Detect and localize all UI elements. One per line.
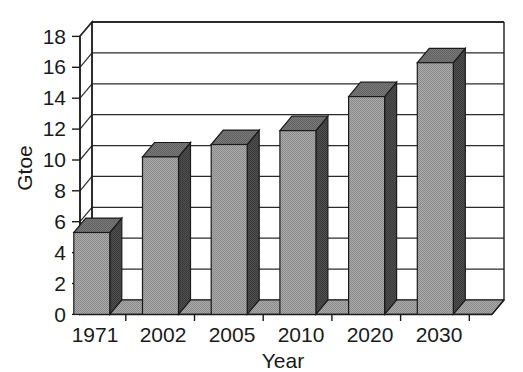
bar-2010: [280, 116, 328, 314]
y-tick-label: 16: [43, 55, 66, 78]
x-tick-label: 2005: [209, 323, 256, 346]
y-tick-label: 2: [54, 272, 66, 295]
y-axis-title: Gtoe: [13, 145, 36, 191]
y-tick-labels: 18 16 14 12 10 8 6 4 2 0: [43, 25, 67, 326]
y-tick-label: 0: [54, 303, 66, 326]
y-tick-label: 12: [43, 117, 66, 140]
bar-chart: 18 16 14 12 10 8 6 4 2 0 1971 2002 2005 …: [0, 0, 523, 372]
y-tick-label: 14: [43, 86, 67, 109]
chart-canvas: 18 16 14 12 10 8 6 4 2 0 1971 2002 2005 …: [0, 0, 523, 372]
x-tick-label: 2010: [278, 323, 325, 346]
bar-2002: [143, 143, 191, 315]
x-ticks: [126, 314, 470, 321]
bar-2020: [349, 82, 397, 314]
bar-2030: [417, 48, 465, 314]
bar-2005: [211, 130, 259, 314]
x-tick-label: 2002: [140, 323, 187, 346]
x-tick-labels: 1971 2002 2005 2010 2020 2030: [72, 323, 463, 346]
y-tick-label: 10: [43, 148, 66, 171]
x-axis-title: Year: [262, 349, 304, 372]
y-tick-label: 6: [54, 210, 66, 233]
x-tick-label: 2020: [347, 323, 394, 346]
bar-1971: [74, 218, 122, 314]
y-tick-label: 18: [43, 25, 66, 48]
x-tick-label: 2030: [416, 323, 463, 346]
x-tick-label: 1971: [72, 323, 119, 346]
y-tick-label: 8: [54, 179, 66, 202]
y-tick-label: 4: [54, 241, 66, 264]
